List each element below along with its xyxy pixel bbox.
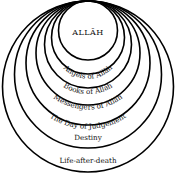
layer-label-destiny: Destiny xyxy=(74,133,103,142)
center-label: ALLĀH xyxy=(71,28,104,37)
layer-label-life-after-death: Life-after-death xyxy=(59,156,116,165)
ring-angels xyxy=(52,1,125,74)
layer-label-books: Books of Allāh xyxy=(62,81,114,97)
articles-of-faith-diagram: ALLĀH Angels of Allāh Books of Allāh Mes… xyxy=(0,0,176,173)
layer-label-day-of-judgement: The Day of Judgement xyxy=(48,111,127,131)
layer-label-angels: Angels of Allāh xyxy=(61,62,114,80)
nested-circles: ALLĀH Angels of Allāh Books of Allāh Mes… xyxy=(0,0,176,173)
ring-life-after-death xyxy=(3,1,174,172)
